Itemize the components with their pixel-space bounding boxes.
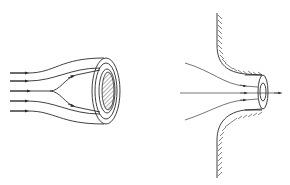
wall-top — [217, 13, 262, 75]
diagram-canvas — [0, 0, 290, 185]
flow-line-4 — [10, 101, 100, 114]
wall-bottom-hatching — [218, 112, 262, 176]
flow-line-2 — [10, 68, 100, 81]
flow-line-1 — [10, 58, 104, 73]
left-panel-flow-diagram — [10, 58, 120, 124]
wall-bottom — [217, 109, 262, 178]
right-panel-flow-diagram — [180, 13, 282, 178]
tube-opening — [245, 75, 268, 110]
ring-body — [92, 58, 120, 124]
